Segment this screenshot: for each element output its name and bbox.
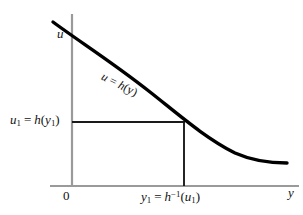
u1-equals: = bbox=[24, 112, 31, 127]
u-axis-label: u bbox=[57, 27, 64, 40]
u1-close-paren: ) bbox=[55, 112, 59, 127]
y1-equals: = bbox=[154, 189, 161, 204]
u1-value-label: u1=h(y1) bbox=[10, 113, 60, 128]
y1-var-subscript: 1 bbox=[147, 195, 151, 205]
function-curve bbox=[53, 22, 287, 163]
y-axis-label: y bbox=[288, 186, 294, 199]
function-inverse-graph: u y 0 u1=h(y1) y1=h−1(u1) u=h(y) bbox=[0, 0, 303, 215]
origin-label: 0 bbox=[63, 189, 70, 202]
y1-value-label: y1=h−1(u1) bbox=[141, 190, 200, 205]
y1-close-paren: ) bbox=[196, 189, 200, 204]
u1-var-subscript: 1 bbox=[17, 118, 21, 128]
graph-canvas bbox=[0, 0, 303, 215]
